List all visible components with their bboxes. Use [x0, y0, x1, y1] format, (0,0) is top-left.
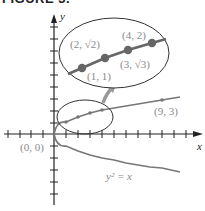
- y-axis: [50, 14, 58, 205]
- y-axis-arrow-icon: [51, 14, 57, 23]
- inset-label-4-2: (4, 2): [122, 29, 146, 42]
- x-axis-label: x: [196, 140, 202, 152]
- inset-label-2-sqrt2: (2, √2): [70, 38, 100, 51]
- inset-label-3-sqrt3: (3, √3): [120, 58, 150, 71]
- small-highlight-ellipse: [57, 100, 113, 134]
- origin-label: (0, 0): [20, 141, 44, 154]
- chart: y x (0, 0) (9, 3) y² = x (1, 1) (2, √2) …: [0, 0, 205, 211]
- equation-label: y² = x: [105, 170, 132, 182]
- point-9-3-label: (9, 3): [154, 105, 178, 118]
- inset-magnified: [59, 18, 169, 88]
- y-axis-label: y: [59, 10, 65, 22]
- curve-lower-branch: [54, 134, 180, 172]
- x-axis: [4, 130, 203, 138]
- inset-label-1-1: (1, 1): [87, 70, 111, 83]
- x-axis-arrow-icon: [193, 131, 203, 137]
